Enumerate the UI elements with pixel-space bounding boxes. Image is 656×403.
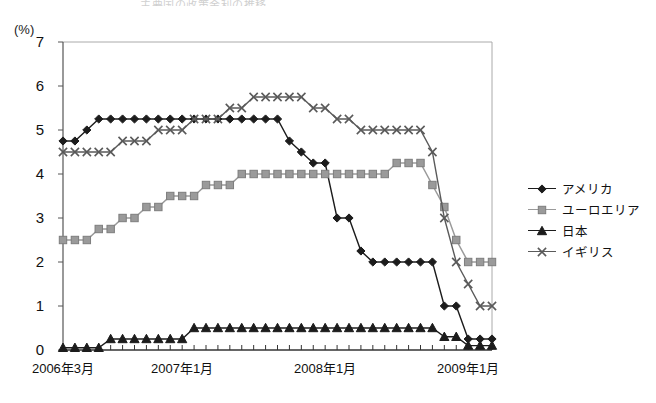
data-marker-square	[393, 159, 400, 166]
data-marker-square	[321, 170, 328, 177]
data-marker-square	[333, 170, 340, 177]
data-marker-diamond	[250, 115, 258, 123]
data-marker-square	[298, 170, 305, 177]
data-marker-diamond	[238, 115, 246, 123]
interest-rate-line-chart: 主要国の政策金利の推移 (%) 01234567 2006年3月2007年1月2…	[0, 0, 656, 403]
data-marker-square	[274, 170, 281, 177]
data-marker-square	[405, 159, 412, 166]
data-marker-cross	[464, 280, 472, 288]
data-marker-diamond	[226, 115, 234, 123]
legend-marker-diamond-icon	[528, 183, 556, 195]
data-marker-triangle	[537, 226, 546, 234]
data-marker-square	[476, 258, 483, 265]
data-marker-square	[262, 170, 269, 177]
data-marker-square	[286, 170, 293, 177]
data-marker-square	[357, 170, 364, 177]
data-marker-square	[95, 225, 102, 232]
data-marker-diamond	[130, 115, 138, 123]
data-marker-square	[83, 236, 90, 243]
legend-marker-triangle-icon	[528, 225, 556, 237]
data-marker-diamond	[416, 258, 424, 266]
data-marker-square	[453, 236, 460, 243]
data-marker-cross	[538, 247, 546, 255]
data-marker-square	[464, 258, 471, 265]
legend-item-label: イギリス	[562, 242, 614, 261]
legend-item-label: ユーロエリア	[562, 200, 640, 219]
data-marker-square	[250, 170, 257, 177]
data-marker-square	[226, 181, 233, 188]
data-marker-diamond	[107, 115, 115, 123]
data-marker-square	[131, 214, 138, 221]
data-marker-diamond	[428, 258, 436, 266]
data-marker-diamond	[440, 302, 448, 310]
data-marker-square	[119, 214, 126, 221]
data-marker-square	[345, 170, 352, 177]
series-line-アメリカ	[63, 119, 492, 339]
data-marker-diamond	[321, 159, 329, 167]
data-marker-square	[369, 170, 376, 177]
data-marker-diamond	[178, 115, 186, 123]
data-marker-square	[429, 181, 436, 188]
data-marker-square	[538, 206, 545, 213]
data-marker-diamond	[345, 214, 353, 222]
data-marker-square	[310, 170, 317, 177]
data-marker-square	[71, 236, 78, 243]
legend-marker-square-icon	[528, 204, 556, 216]
data-marker-square	[202, 181, 209, 188]
legend-marker-cross-icon	[528, 246, 556, 258]
data-marker-square	[143, 203, 150, 210]
data-marker-square	[238, 170, 245, 177]
data-marker-cross	[452, 258, 460, 266]
data-marker-square	[488, 258, 495, 265]
data-marker-diamond	[59, 137, 67, 145]
legend-item-日本[interactable]: 日本	[528, 220, 640, 241]
data-marker-diamond	[142, 115, 150, 123]
data-marker-diamond	[166, 115, 174, 123]
data-marker-diamond	[261, 115, 269, 123]
data-marker-square	[155, 203, 162, 210]
legend-item-イギリス[interactable]: イギリス	[528, 241, 640, 262]
data-marker-square	[190, 192, 197, 199]
data-marker-square	[381, 170, 388, 177]
data-marker-diamond	[333, 214, 341, 222]
data-marker-diamond	[118, 115, 126, 123]
data-marker-square	[214, 181, 221, 188]
data-marker-square	[417, 159, 424, 166]
data-marker-diamond	[273, 115, 281, 123]
legend-item-label: 日本	[562, 221, 588, 240]
data-marker-diamond	[404, 258, 412, 266]
legend-item-label: アメリカ	[562, 179, 613, 198]
legend-item-ユーロエリア[interactable]: ユーロエリア	[528, 199, 640, 220]
data-marker-square	[59, 236, 66, 243]
data-marker-square	[167, 192, 174, 199]
data-marker-diamond	[452, 302, 460, 310]
series-line-イギリス	[63, 97, 492, 306]
data-marker-square	[178, 192, 185, 199]
chart-legend: アメリカユーロエリア日本イギリス	[528, 178, 640, 262]
data-marker-diamond	[154, 115, 162, 123]
data-marker-diamond	[538, 184, 546, 192]
data-marker-square	[107, 225, 114, 232]
series-ユーロエリア	[59, 159, 495, 265]
data-marker-diamond	[393, 258, 401, 266]
data-marker-diamond	[381, 258, 389, 266]
series-イギリス	[59, 93, 496, 310]
legend-item-アメリカ[interactable]: アメリカ	[528, 178, 640, 199]
